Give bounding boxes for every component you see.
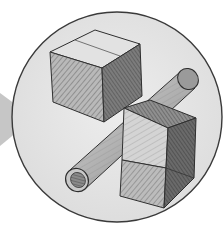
sketch-illustration: [0, 0, 224, 234]
